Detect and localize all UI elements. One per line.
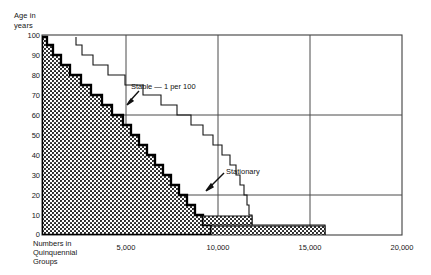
stationary-base-stipple	[211, 226, 325, 235]
stationary-arrow	[206, 173, 224, 191]
population-pyramid-figure: Age in years 100 90 80 70 60 50 40 30 20…	[0, 0, 431, 275]
stable-arrow	[127, 91, 139, 105]
pyramid-plot	[0, 0, 431, 275]
stationary-cohort-5-9-stipple	[203, 216, 252, 225]
